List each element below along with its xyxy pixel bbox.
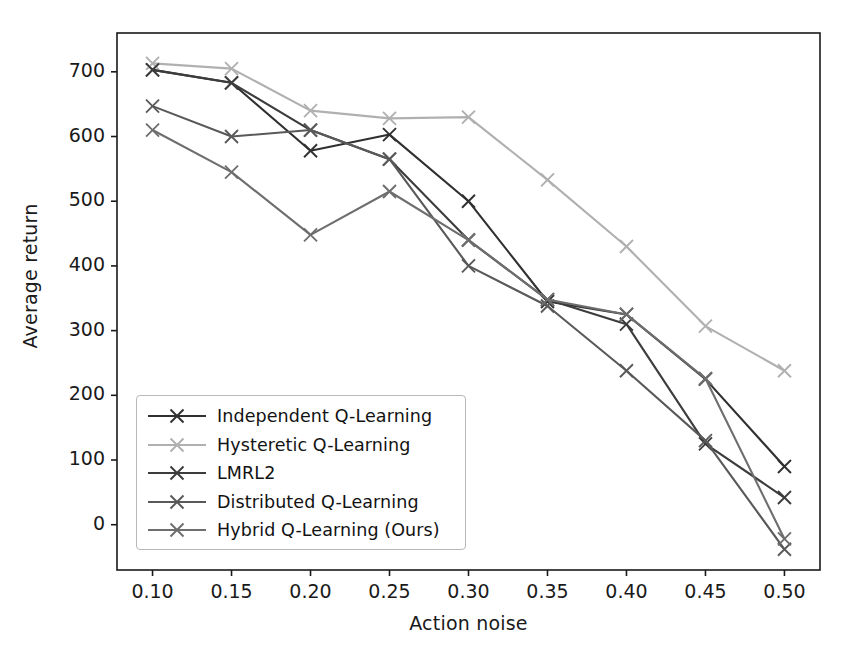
legend-item-2[interactable]: Hysteretic Q-Learning (145, 431, 457, 460)
y-axis-label: Average return (19, 116, 41, 436)
legend-line-sample (145, 519, 209, 541)
y-tick-label: 700 (45, 59, 105, 81)
y-tick-label: 400 (45, 253, 105, 275)
legend-line-sample (145, 462, 209, 484)
x-tick-label: 0.15 (197, 580, 267, 602)
x-tick-label: 0.10 (118, 580, 188, 602)
x-axis-label: Action noise (117, 612, 820, 634)
legend-label: Distributed Q-Learning (217, 492, 419, 512)
x-tick-label: 0.40 (591, 580, 661, 602)
legend-line-sample (145, 405, 209, 427)
legend-label: Hysteretic Q-Learning (217, 435, 410, 455)
legend: Independent Q-LearningHysteretic Q-Learn… (136, 395, 466, 550)
y-tick-label: 300 (45, 318, 105, 340)
legend-label: Independent Q-Learning (217, 406, 432, 426)
x-tick-label: 0.20 (276, 580, 346, 602)
y-tick-label: 600 (45, 124, 105, 146)
x-tick-label: 0.45 (670, 580, 740, 602)
legend-item-4[interactable]: Distributed Q-Learning (145, 488, 457, 517)
legend-item-5[interactable]: Hybrid Q-Learning (Ours) (145, 516, 457, 545)
legend-line-sample (145, 434, 209, 456)
x-tick-label: 0.35 (512, 580, 582, 602)
x-tick-label: 0.30 (434, 580, 504, 602)
y-tick-label: 0 (45, 512, 105, 534)
x-tick-label: 0.50 (749, 580, 819, 602)
legend-label: Hybrid Q-Learning (Ours) (217, 520, 440, 540)
y-tick-label: 100 (45, 447, 105, 469)
legend-label: LMRL2 (217, 463, 275, 483)
legend-item-1[interactable]: Independent Q-Learning (145, 402, 457, 431)
x-tick-label: 0.25 (355, 580, 425, 602)
y-tick-label: 200 (45, 382, 105, 404)
chart-figure: Average return Action noise 010020030040… (0, 0, 852, 650)
y-tick-label: 500 (45, 188, 105, 210)
legend-rows: Independent Q-LearningHysteretic Q-Learn… (145, 402, 457, 545)
figure-background (0, 0, 852, 650)
legend-line-sample (145, 491, 209, 513)
legend-item-3[interactable]: LMRL2 (145, 459, 457, 488)
plot-canvas (0, 0, 852, 650)
